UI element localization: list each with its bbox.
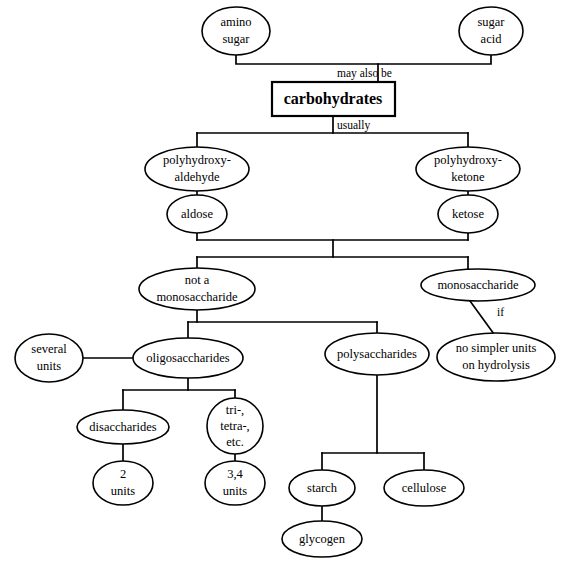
node-amino-sugar-label-line1: amino bbox=[220, 15, 251, 29]
node-oligosaccharides-label: oligosaccharides bbox=[146, 351, 229, 365]
node-carbohydrates-label: carbohydrates bbox=[284, 90, 383, 108]
node-glycogen[interactable]: glycogen bbox=[282, 521, 362, 557]
node-tri-tetra-etc-label-line2: tetra-, bbox=[220, 419, 250, 433]
node-polyhydroxy-aldehyde-label-line2: aldehyde bbox=[174, 170, 220, 184]
connector-sugar-acid-to-carbohydrates bbox=[378, 55, 491, 64]
node-oligosaccharides[interactable]: oligosaccharides bbox=[133, 338, 243, 378]
node-tri-tetra-etc[interactable]: tri-, tetra-, etc. bbox=[207, 398, 263, 454]
node-no-simpler-units-label-line2: on hydrolysis bbox=[462, 358, 530, 372]
node-several-units-label-line2: units bbox=[37, 359, 61, 373]
node-ketose[interactable]: ketose bbox=[438, 195, 498, 233]
node-polyhydroxy-ketone[interactable]: polyhydroxy- ketone bbox=[416, 147, 520, 191]
node-monosaccharide[interactable]: monosaccharide bbox=[421, 269, 535, 301]
flowchart-diagram: amino sugar sugar acid may also be carbo… bbox=[0, 0, 573, 571]
node-2-units[interactable]: 2 units bbox=[93, 461, 153, 505]
node-not-a-monosaccharide-label-line1: not a bbox=[185, 273, 210, 287]
node-polyhydroxy-aldehyde-label-line1: polyhydroxy- bbox=[163, 153, 231, 167]
node-amino-sugar-label-line2: sugar bbox=[222, 32, 250, 46]
node-carbohydrates[interactable]: carbohydrates bbox=[272, 82, 395, 116]
node-polysaccharides-label: polysaccharides bbox=[337, 347, 417, 361]
node-tri-tetra-etc-label-line3: etc. bbox=[226, 435, 244, 449]
node-3-4-units[interactable]: 3,4 units bbox=[205, 461, 265, 505]
node-sugar-acid-label-line1: sugar bbox=[477, 15, 505, 29]
connector-monosaccharide-to-no-simpler-units bbox=[470, 301, 494, 334]
node-disaccharides[interactable]: disaccharides bbox=[77, 410, 169, 444]
node-disaccharides-label: disaccharides bbox=[89, 420, 156, 434]
node-starch[interactable]: starch bbox=[289, 470, 355, 506]
node-2-units-label-line1: 2 bbox=[120, 467, 126, 481]
node-no-simpler-units[interactable]: no simpler units on hydrolysis bbox=[437, 333, 555, 381]
node-polyhydroxy-ketone-label-line1: polyhydroxy- bbox=[434, 153, 502, 167]
node-several-units[interactable]: several units bbox=[15, 334, 83, 382]
node-polyhydroxy-aldehyde[interactable]: polyhydroxy- aldehyde bbox=[145, 147, 249, 191]
node-amino-sugar[interactable]: amino sugar bbox=[202, 7, 270, 55]
node-polysaccharides[interactable]: polysaccharides bbox=[325, 333, 429, 375]
node-tri-tetra-etc-label-line1: tri-, bbox=[226, 403, 244, 417]
node-glycogen-label: glycogen bbox=[299, 532, 346, 546]
node-2-units-label-line2: units bbox=[111, 484, 135, 498]
node-cellulose[interactable]: cellulose bbox=[384, 470, 464, 506]
node-several-units-label-line1: several bbox=[31, 342, 67, 356]
node-starch-label: starch bbox=[307, 481, 338, 495]
node-monosaccharide-label: monosaccharide bbox=[437, 278, 519, 292]
node-aldose[interactable]: aldose bbox=[167, 195, 227, 233]
node-sugar-acid-label-line2: acid bbox=[481, 32, 503, 46]
node-polyhydroxy-ketone-label-line2: ketone bbox=[451, 170, 485, 184]
flowchart-svg: amino sugar sugar acid may also be carbo… bbox=[0, 0, 573, 571]
edge-label-if: if bbox=[497, 306, 504, 318]
node-ketose-label: ketose bbox=[452, 207, 484, 221]
node-no-simpler-units-label-line1: no simpler units bbox=[456, 341, 537, 355]
node-not-a-monosaccharide-label-line2: monosaccharide bbox=[156, 290, 238, 304]
node-aldose-label: aldose bbox=[181, 207, 213, 221]
node-3-4-units-label-line1: 3,4 bbox=[227, 467, 243, 481]
node-3-4-units-label-line2: units bbox=[223, 484, 247, 498]
node-not-a-monosaccharide[interactable]: not a monosaccharide bbox=[139, 268, 255, 310]
node-cellulose-label: cellulose bbox=[402, 481, 447, 495]
edge-label-may-also-be: may also be bbox=[337, 67, 392, 80]
node-sugar-acid[interactable]: sugar acid bbox=[459, 7, 523, 55]
edge-label-usually: usually bbox=[337, 119, 370, 132]
